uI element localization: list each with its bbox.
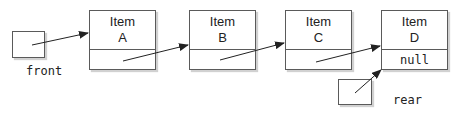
node-d-item-label: Item bbox=[402, 14, 427, 30]
node-d: Item D null bbox=[381, 10, 448, 70]
node-b-next bbox=[190, 50, 255, 70]
front-label: front bbox=[26, 64, 62, 78]
node-d-next-null: null bbox=[382, 50, 447, 70]
node-a-item-value: A bbox=[118, 30, 127, 46]
node-b-item-label: Item bbox=[210, 14, 235, 30]
node-b-item-value: B bbox=[218, 30, 227, 46]
node-d-item: Item D bbox=[382, 11, 447, 50]
node-b-item: Item B bbox=[190, 11, 255, 50]
rear-label: rear bbox=[393, 93, 422, 107]
front-pointer-box bbox=[12, 31, 45, 58]
node-b: Item B bbox=[189, 10, 256, 70]
linked-queue-diagram: front Item A Item B Item C Item D null r… bbox=[0, 0, 462, 113]
node-c-item-value: C bbox=[314, 30, 323, 46]
node-a-item-label: Item bbox=[110, 14, 135, 30]
node-c-next bbox=[286, 50, 351, 70]
node-a-next bbox=[90, 50, 155, 70]
node-a-item: Item A bbox=[90, 11, 155, 50]
node-c: Item C bbox=[285, 10, 352, 70]
node-d-item-value: D bbox=[410, 30, 419, 46]
node-c-item: Item C bbox=[286, 11, 351, 50]
node-c-item-label: Item bbox=[306, 14, 331, 30]
node-a: Item A bbox=[89, 10, 156, 70]
rear-pointer-box bbox=[338, 79, 372, 105]
